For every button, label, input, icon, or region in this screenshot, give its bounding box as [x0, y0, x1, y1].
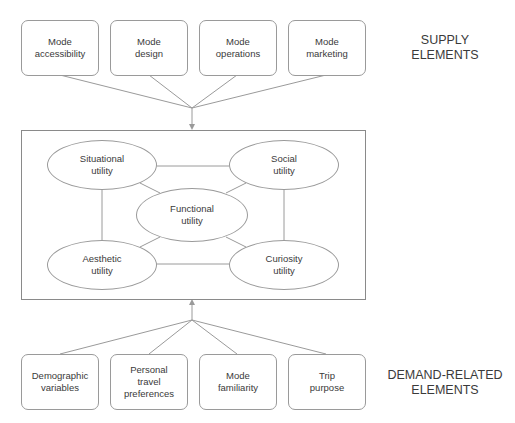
ellipse-aesthetic-utility: Aesthetic utility — [47, 240, 157, 290]
ellipse-functional-utility: Functional utility — [136, 188, 248, 242]
box-mode-operations: Mode operations — [199, 20, 277, 76]
box-personal-travel-preferences: Personal travel preferences — [110, 354, 188, 410]
ellipse-situational-utility: Situational utility — [47, 140, 157, 190]
ellipse-social-utility: Social utility — [229, 140, 339, 190]
box-trip-purpose: Trip purpose — [288, 354, 366, 410]
box-mode-design: Mode design — [110, 20, 188, 76]
supply-elements-label: SUPPLY ELEMENTS — [400, 33, 490, 63]
box-mode-marketing: Mode marketing — [288, 20, 366, 76]
box-mode-accessibility: Mode accessibility — [21, 20, 99, 76]
ellipse-curiosity-utility: Curiosity utility — [229, 240, 339, 290]
demand-elements-label: DEMAND-RELATED ELEMENTS — [375, 368, 515, 398]
box-demographic-variables: Demographic variables — [21, 354, 99, 410]
box-mode-familiarity: Mode familiarity — [199, 354, 277, 410]
